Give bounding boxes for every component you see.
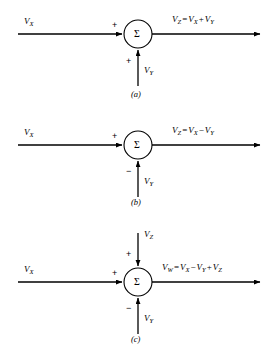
panel-c-bottom-input-sign: − [126,304,131,313]
panel-a-bottom-input-sign: + [126,57,131,66]
panel-c-bottom-input-label: VY [144,314,153,323]
panel-a-caption: (a) [131,90,141,99]
panel-b-caption: (b) [131,198,141,207]
summing-junction-figure: Σ VX + + VY VZ=VX+VY (a) Σ VX + − VY VZ=… [0,0,269,354]
panel-b-bottom-input-label: VY [144,177,153,186]
panel-b-left-input-label: VX [24,128,33,137]
panel-c-left-input-label: VX [24,265,33,274]
panel-c-top-input-sign: + [126,250,131,259]
panel-b-bottom-input-sign: − [126,167,131,176]
panel-a-output-equation: VZ=VX+VY [172,15,214,24]
panel-a-left-input-label: VX [24,17,33,26]
panel-c-caption: (c) [131,335,140,344]
summing-junction-symbol-b: Σ [134,140,140,150]
panel-b-left-input-sign: + [112,132,117,141]
summing-junction-symbol-c: Σ [134,277,140,287]
panel-a-left-input-sign: + [112,21,117,30]
summing-junction-symbol-a: Σ [134,29,140,39]
panel-c-top-input-label: VZ [144,230,153,239]
panel-b-output-equation: VZ=VX−VY [172,126,214,135]
panel-a-bottom-input-label: VY [144,66,153,75]
panel-c-left-input-sign: + [112,269,117,278]
diagram-linework [0,0,269,354]
panel-c-output-equation: VW=VX−VY+VZ [162,263,222,272]
